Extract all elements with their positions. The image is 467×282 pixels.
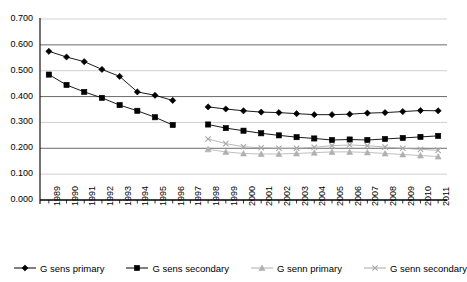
legend-label: G senn secondary [390,263,467,274]
x-axis-tick-label: 2006 [354,186,363,206]
legend-label: G sens primary [40,263,104,274]
x-axis-tick-label: 2007 [371,186,380,206]
x-axis-tick-label: 2005 [336,186,345,206]
data-point [135,265,140,270]
x-axis-tick-label: 1994 [141,186,150,206]
x-axis-tick-label: 1992 [106,186,115,206]
x-axis-tick-label: 2004 [318,186,327,206]
x-axis-tick-label: 1995 [159,186,168,206]
data-point [22,265,28,271]
x-axis-tick-label: 1999 [230,186,239,206]
x-axis-tick-label: 2011 [442,187,451,206]
x-axis-tick-label: 2008 [389,186,398,206]
square-marker-icon [126,263,148,273]
x-marker-icon [364,263,386,273]
x-axis-tick-label: 1990 [71,186,80,206]
legend-item-g-senn-primary[interactable]: G senn primary [251,263,342,274]
x-axis-tick-label: 1991 [88,186,97,206]
x-axis-tick-label: 2009 [407,186,416,206]
diamond-marker-icon [14,263,36,273]
x-axis-tick-label: 1989 [53,186,62,206]
x-axis-tick-label: 1997 [194,186,203,206]
x-axis-tick-label: 2002 [283,186,292,206]
chart-legend: G sens primaryG sens secondaryG senn pri… [14,258,446,278]
x-axis-tick-label: 2001 [265,186,274,206]
legend-item-g-sens-primary[interactable]: G sens primary [14,263,104,274]
x-axis-tick-label: 2003 [301,186,310,206]
legend-label: G senn primary [277,263,342,274]
legend-item-g-senn-secondary[interactable]: G senn secondary [364,263,467,274]
x-axis-tick-label: 2010 [424,186,433,206]
x-axis-tick-label: 2000 [248,186,257,206]
legend-label: G sens secondary [152,263,229,274]
legend-item-g-sens-secondary[interactable]: G sens secondary [126,263,229,274]
x-axis-tick-label: 1998 [212,186,221,206]
x-axis-tick-label: 1993 [124,186,133,206]
x-axis-tick-label: 1996 [177,186,186,206]
triangle-marker-icon [251,263,273,273]
